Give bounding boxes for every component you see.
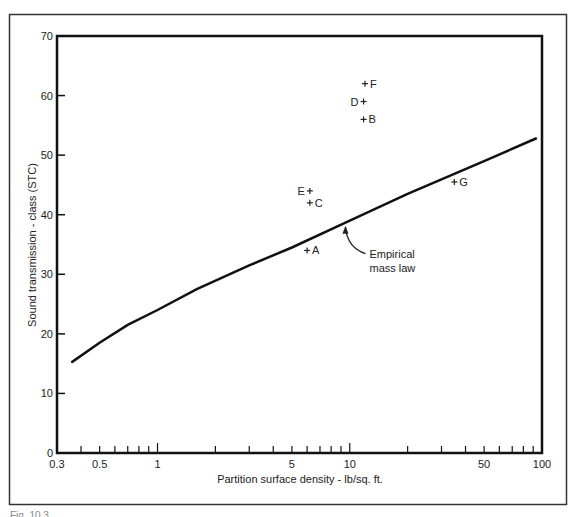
x-tick-label: 100 xyxy=(533,458,551,470)
annotation-empirical-mass-law: Empiricalmass law xyxy=(342,226,415,274)
data-point-c: C xyxy=(307,197,323,209)
y-tick-label: 10 xyxy=(41,387,53,399)
point-label: F xyxy=(370,78,377,90)
annotation-text: mass law xyxy=(369,262,415,274)
data-point-e: E xyxy=(298,185,313,197)
arrowhead-icon xyxy=(342,226,348,234)
data-point-a: A xyxy=(304,244,320,256)
data-points: ABCDEFG xyxy=(298,78,468,257)
y-axis: 010203040506070 xyxy=(41,30,65,459)
data-point-b: B xyxy=(361,113,376,125)
y-tick-label: 50 xyxy=(41,149,53,161)
y-axis-title: Sound transmission - class (STC) xyxy=(26,163,38,327)
y-tick-label: 30 xyxy=(41,268,53,280)
x-tick-label: 0.5 xyxy=(92,458,107,470)
y-tick-label: 70 xyxy=(41,30,53,42)
figure-caption: Fig. 10.3 xyxy=(10,508,49,517)
point-label: B xyxy=(369,113,376,125)
x-tick-label: 0.3 xyxy=(49,458,64,470)
point-label: A xyxy=(312,244,320,256)
figure-frame xyxy=(10,15,567,505)
x-tick-label: 50 xyxy=(478,458,490,470)
annotation-text: Empirical xyxy=(369,248,414,260)
data-point-g: G xyxy=(451,176,468,188)
point-label: E xyxy=(298,185,305,197)
point-label: G xyxy=(459,176,468,188)
point-label: C xyxy=(315,197,323,209)
x-axis-title: Partition surface density - lb/sq. ft. xyxy=(217,473,383,485)
x-tick-label: 5 xyxy=(289,458,295,470)
annotation-arrow xyxy=(345,228,365,254)
y-tick-label: 60 xyxy=(41,90,53,102)
x-axis: 0.30.5151050100 xyxy=(49,443,551,470)
point-label: D xyxy=(351,96,359,108)
data-point-d: D xyxy=(351,96,367,108)
y-tick-label: 40 xyxy=(41,209,53,221)
data-point-f: F xyxy=(362,78,377,90)
empirical-mass-law-line xyxy=(72,139,536,362)
x-tick-label: 10 xyxy=(344,458,356,470)
y-tick-label: 20 xyxy=(41,328,53,340)
chart: 010203040506070 0.30.5151050100 Sound tr… xyxy=(0,0,576,517)
x-tick-label: 1 xyxy=(154,458,160,470)
